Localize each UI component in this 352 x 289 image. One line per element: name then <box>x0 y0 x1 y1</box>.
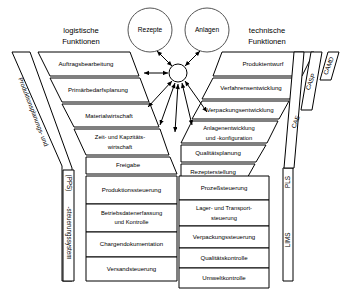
right-block-4-label-line2: und -konfiguration <box>206 135 252 141</box>
arrow-hub-fan-left-1 <box>148 81 172 107</box>
left-header-line1: logistische <box>63 26 98 35</box>
right-lower-block-1-label: Prozeßsteuerung <box>201 184 248 191</box>
right-block-5-label: Qualitätsplanung <box>195 149 241 156</box>
circle-anlagen-label: Anlagen <box>195 26 220 34</box>
funnel-diagram: Produktionsplanungs- und (PPS) -steuerun… <box>0 0 352 289</box>
right-lower-block-5-label: Umweltkontrolle <box>202 274 246 281</box>
left-block-2-label: Primärbedarfsplanung <box>68 86 128 93</box>
left-lower-block-2-label-line1: Betriebsdatenerfassung <box>101 210 162 216</box>
left-lower-block-2-label-line2: und Kontrolle <box>114 219 148 225</box>
arrow-hub-to-rezepte <box>157 51 172 66</box>
left-header-line2: Funktionen <box>62 37 100 46</box>
left-block-4 <box>74 129 169 155</box>
left-lower-block-2 <box>86 204 177 232</box>
right-block-6-label: Rezepterstellung <box>190 168 236 175</box>
right-block-1-label: Produktentwurf <box>243 60 284 67</box>
left-block-4-label-line2: wirtschaft <box>107 144 133 150</box>
right-lower-block-2-label-line1: Lager- und Transport- <box>196 205 252 211</box>
left-band-steuerungssystem-label: -steuerungssystem <box>65 206 73 259</box>
left-block-1-label: Auftragsbearbeitung <box>59 60 114 67</box>
arrow-hub-fan-center <box>175 84 178 132</box>
right-lower-block-3-label: Verpackungssteuerung <box>193 233 255 240</box>
left-lower-block-1-label: Produktionssteuerung <box>102 186 161 193</box>
right-band-pls-label: PLS <box>284 176 291 188</box>
right-block-4-label-line1: Anlagenentwicklung <box>203 125 255 131</box>
diagram-canvas: Produktionsplanungs- und (PPS) -steuerun… <box>0 0 352 289</box>
right-band-lims-label: LIMS <box>284 233 291 248</box>
arrow-hub-to-anlagen <box>185 51 200 66</box>
left-block-5-label: Freigabe <box>116 161 141 168</box>
right-lower-block-2-label-line2: steuerung <box>211 215 237 221</box>
central-hub-node <box>169 64 187 82</box>
right-lower-block-4-label: Qualitätskontrolle <box>200 254 248 261</box>
left-lower-block-3-label: Chargendokumentation <box>100 240 163 247</box>
right-lower-block-2 <box>179 200 269 226</box>
right-block-3-label: Verpackungsentwicklung <box>206 106 273 113</box>
right-header-line1: technische <box>249 26 285 35</box>
left-block-4-label-line1: Zeit- und Kapzitäts- <box>95 134 145 140</box>
left-block-3-label: Materialwirtschaft <box>85 112 133 119</box>
circle-rezepte-label: Rezepte <box>138 26 163 34</box>
right-block-2-label: Verfahrensentwicklung <box>220 84 281 91</box>
left-lower-block-4-label: Versandsteuerung <box>107 265 156 272</box>
arrow-hub-fan-left-2 <box>160 83 175 125</box>
right-header-line2: Funktionen <box>248 37 286 46</box>
left-band-pps-label: (PPS) <box>65 175 73 192</box>
